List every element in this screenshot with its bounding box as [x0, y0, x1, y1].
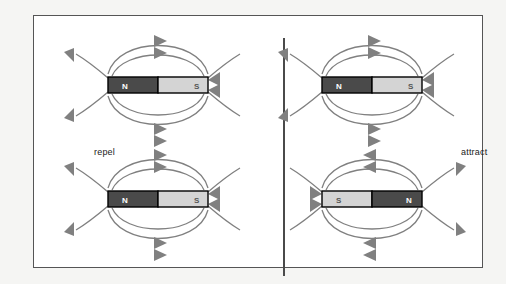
field-line-left-upper	[290, 54, 322, 78]
field-arc-top-inner	[326, 55, 418, 76]
field-diagram-bottom-left: N S	[46, 136, 261, 262]
diagram-frame: N S	[33, 15, 483, 268]
magnet-body-top-right: N S	[322, 77, 422, 93]
field-diagram-top-right: N S	[260, 22, 475, 148]
field-arc-top-inner	[112, 55, 204, 76]
caption-repel: repel	[94, 147, 115, 157]
field-line-right-upper	[422, 168, 454, 192]
field-line-left-lower	[76, 206, 108, 230]
field-diagram-bottom-right: S N	[260, 136, 475, 262]
magnet-north-pole	[372, 191, 422, 207]
field-line-right-lower	[208, 206, 240, 230]
field-arc-bottom-inner	[326, 94, 418, 115]
arrowhead-left-lower	[64, 108, 74, 122]
arrowhead-right-upper	[422, 72, 434, 86]
arrowhead-left-lower	[310, 198, 322, 212]
panel-bottom-left: N S	[46, 136, 261, 262]
magnet-body-bottom-left: N S	[108, 191, 208, 207]
pole-label-south: S	[336, 196, 342, 205]
arrowhead-top-inner	[154, 161, 167, 173]
pole-label-north: N	[122, 82, 128, 91]
field-arc-bottom-inner	[112, 94, 204, 115]
magnet-north-pole	[322, 77, 372, 93]
magnet-body-bottom-right: S N	[322, 191, 422, 207]
arrowhead-bottom-outer	[154, 249, 167, 261]
magnet-body-top-left: N S	[108, 77, 208, 93]
field-arc-top-inner	[326, 169, 418, 190]
field-line-left-upper	[76, 168, 108, 192]
magnet-south-pole	[158, 191, 208, 207]
field-line-right-lower	[208, 92, 240, 116]
arrowhead-bottom-outer	[363, 249, 376, 261]
field-diagram-top-left: N S	[46, 22, 261, 148]
field-line-left-upper	[76, 54, 108, 78]
pole-label-south: S	[408, 82, 414, 91]
field-line-right-upper	[422, 54, 454, 78]
magnet-south-pole	[372, 77, 422, 93]
field-line-right-upper	[208, 54, 240, 78]
caption-attract: attract	[461, 147, 487, 157]
field-arc-bottom-outer	[322, 210, 422, 239]
arrowhead-left-upper	[64, 162, 74, 176]
arrowhead-right-lower	[208, 84, 220, 98]
arrowhead-right-upper	[208, 186, 220, 200]
pole-label-north: N	[336, 82, 342, 91]
magnet-north-pole	[108, 191, 158, 207]
field-arc-bottom-outer	[108, 96, 208, 125]
field-line-left-lower	[76, 92, 108, 116]
panel-top-left: N S	[46, 22, 261, 148]
field-arc-bottom-outer	[108, 210, 208, 239]
field-arc-bottom-inner	[326, 208, 418, 229]
magnet-north-pole	[108, 77, 158, 93]
field-line-right-lower	[422, 206, 454, 230]
arrowhead-top-inner	[154, 47, 167, 59]
pole-label-north: N	[122, 196, 128, 205]
field-line-right-upper	[208, 168, 240, 192]
pole-label-south: S	[194, 82, 200, 91]
pole-label-south: S	[194, 196, 200, 205]
arrowhead-right-lower	[208, 198, 220, 212]
pole-label-north: N	[406, 196, 412, 205]
field-line-left-lower	[290, 92, 322, 116]
arrowhead-right-upper	[208, 72, 220, 86]
panel-bottom-right: S N	[260, 136, 475, 262]
field-arc-bottom-outer	[322, 96, 422, 125]
field-arc-bottom-inner	[112, 208, 204, 229]
magnet-field-diagram: N S	[0, 0, 506, 284]
field-arc-top-inner	[112, 169, 204, 190]
arrowhead-right-lower	[456, 222, 466, 236]
arrowhead-top-inner	[363, 161, 376, 173]
field-line-right-lower	[422, 92, 454, 116]
arrowhead-left-lower	[278, 108, 288, 122]
panel-top-right: N S	[260, 22, 475, 148]
field-line-left-lower	[290, 206, 322, 230]
magnet-south-pole	[322, 191, 372, 207]
arrowhead-left-upper	[278, 48, 288, 62]
arrowhead-right-lower	[422, 84, 434, 98]
arrowhead-left-upper	[64, 48, 74, 62]
magnet-south-pole	[158, 77, 208, 93]
field-line-left-upper	[290, 168, 322, 192]
arrowhead-top-inner	[368, 47, 381, 59]
arrowhead-left-lower	[64, 222, 74, 236]
arrowhead-left-upper	[310, 186, 322, 200]
arrowhead-right-upper	[456, 162, 466, 176]
